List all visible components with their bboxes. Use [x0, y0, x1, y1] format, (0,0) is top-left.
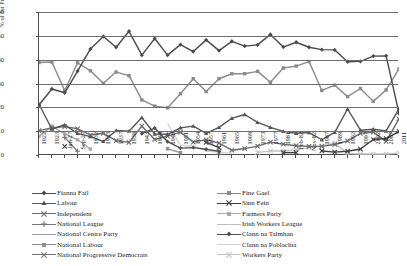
x-axis-tick-label: 1943: [144, 132, 150, 160]
gridline: [39, 12, 398, 13]
gridline: [39, 36, 398, 37]
legend-marker-x-icon: [39, 209, 49, 219]
x-axis-tick-mark: [179, 155, 180, 158]
x-axis-tick-mark: [77, 155, 78, 158]
y-axis-tick-mark: [36, 131, 39, 132]
legend-swatch: [32, 220, 56, 229]
x-axis-tick-mark: [102, 155, 103, 158]
x-axis-tick-mark: [359, 155, 360, 158]
x-axis-tick-label: Sep-27: [80, 132, 86, 160]
y-axis-tick-label: 0: [0, 152, 4, 159]
legend-label: National Labour: [56, 241, 103, 249]
legend-item[interactable]: Clann na Talmhan: [217, 229, 302, 239]
x-axis-tick-mark: [257, 155, 258, 158]
x-axis-tick-label: 1937: [118, 132, 124, 160]
legend-swatch: [217, 220, 241, 229]
legend-label: Independent: [56, 210, 92, 218]
x-axis-tick-label: 1938: [131, 132, 137, 160]
x-axis-tick-label: 1948: [170, 132, 176, 160]
x-axis-tick-label: 1973: [260, 132, 266, 160]
legend-item[interactable]: National League: [32, 219, 148, 229]
legend-item[interactable]: National Centre Party: [32, 229, 148, 239]
x-axis-tick-mark: [154, 155, 155, 158]
x-axis-tick-label: 1954: [195, 132, 201, 160]
legend-label: Labour: [56, 199, 77, 207]
x-axis-tick-mark: [64, 155, 65, 158]
legend-swatch: [32, 209, 56, 218]
legend-marker-diamond-icon: [224, 229, 234, 239]
legend-item[interactable]: Independent: [32, 209, 148, 219]
legend-swatch: [32, 250, 56, 259]
legend-item[interactable]: Fianna Fail: [32, 188, 148, 198]
x-axis-tick-mark: [167, 155, 168, 158]
y-axis-tick-label: 60: [0, 9, 4, 16]
y-axis-tick-label: 30: [0, 81, 4, 88]
x-axis-tick-mark: [269, 155, 270, 158]
legend-item[interactable]: Fine Gael: [217, 188, 302, 198]
legend-label: Clann na Poblachta: [241, 241, 296, 249]
y-axis-tick-label: 50: [0, 33, 4, 40]
legend-item[interactable]: Labour: [32, 198, 148, 208]
legend-item[interactable]: National Progressive Democrats: [32, 250, 148, 260]
x-axis-tick-label: 2011: [401, 132, 407, 160]
legend-line: [32, 234, 56, 235]
legend-marker-square-icon: [224, 188, 234, 198]
x-axis-tick-label: 1932: [93, 132, 99, 160]
legend-marker-diamond-icon: [39, 188, 49, 198]
legend-label: Workers Party: [241, 251, 282, 259]
y-axis-tick-mark: [36, 36, 39, 37]
x-axis-tick-label: 1987: [324, 132, 330, 160]
legend-swatch: [32, 240, 56, 249]
legend-label: Irish Workers League: [241, 220, 302, 228]
legend-swatch: [32, 199, 56, 208]
x-axis-tick-label: 1961: [221, 132, 227, 160]
legend-item[interactable]: Sinn Fein: [217, 198, 302, 208]
y-axis-tick-label: 40: [0, 57, 4, 64]
legend-item[interactable]: Workers Party: [217, 250, 302, 260]
x-axis-tick-mark: [89, 155, 90, 158]
legend-label: Fianna Fail: [56, 189, 89, 197]
x-axis-tick-label: 1981: [285, 132, 291, 160]
legend-swatch: [217, 199, 241, 208]
x-axis-tick-mark: [334, 155, 335, 158]
legend-marker-square-icon: [39, 240, 49, 250]
x-axis-tick-label: 2007: [388, 132, 394, 160]
gridline: [39, 60, 398, 61]
x-axis-tick-mark: [372, 155, 373, 158]
x-axis-tick-mark: [385, 155, 386, 158]
gridline: [39, 107, 398, 108]
legend-swatch: [217, 189, 241, 198]
legend-marker-square-icon: [224, 209, 234, 219]
x-axis-tick-mark: [51, 155, 52, 158]
legend-item[interactable]: Clann na Poblachta: [217, 239, 302, 249]
legend-marker-plus-icon: [39, 219, 49, 229]
legend-marker-x-icon: [224, 250, 234, 260]
x-axis-tick-label: 1944: [157, 132, 163, 160]
legend-swatch: [32, 189, 56, 198]
x-axis-tick-label: 1922: [41, 132, 47, 160]
y-axis-tick-label: 20: [0, 104, 4, 111]
x-axis-tick-mark: [192, 155, 193, 158]
x-axis-tick-mark: [295, 155, 296, 158]
x-axis-tick-label: 1957: [208, 132, 214, 160]
y-axis-tick-mark: [36, 107, 39, 108]
legend-swatch: [217, 209, 241, 218]
x-axis-tick-label: 1965: [234, 132, 240, 160]
legend-marker-x-icon: [39, 250, 49, 260]
legend-label: National Progressive Democrats: [56, 251, 148, 259]
x-axis-tick-mark: [128, 155, 129, 158]
legend-item[interactable]: National Labour: [32, 239, 148, 249]
x-axis-tick-mark: [244, 155, 245, 158]
x-axis-tick-label: 1951: [183, 132, 189, 160]
x-axis-tick-mark: [321, 155, 322, 158]
x-axis-tick-mark: [115, 155, 116, 158]
legend-item[interactable]: Farmers Party: [217, 209, 302, 219]
x-axis-tick-mark: [38, 155, 39, 158]
x-axis-tick-label: Feb-82: [298, 132, 304, 160]
legend-item[interactable]: Irish Workers League: [217, 219, 302, 229]
series-fine-gael: [39, 60, 399, 110]
x-axis-tick-mark: [141, 155, 142, 158]
legend-label: Farmers Party: [241, 210, 281, 218]
legend-label: Clann na Talmhan: [241, 230, 293, 238]
